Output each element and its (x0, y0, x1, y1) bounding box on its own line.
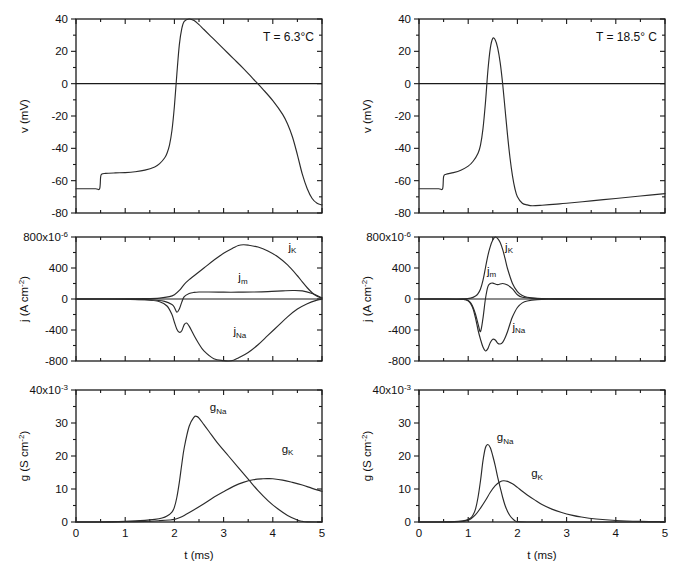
curve-label-j-left-jm-text: jm (237, 271, 248, 286)
y-axis-label-g-right: g (S cm-2) (360, 431, 373, 482)
curve-label-g-right-gNa-text: gNa (497, 431, 514, 446)
curve-label-g-right-gNa: gNa (497, 431, 514, 446)
y-ticklabel-v-left-6: 40 (55, 13, 68, 25)
curve-label-j-right-jm: jm (486, 265, 497, 280)
x-ticklabel-g-right-0: 0 (416, 527, 422, 539)
y-axis-label-v-left: v (mV) (18, 99, 30, 133)
panel-j-left: -800-4000400800x10-6j (A cm-2)jKjmjNa (17, 230, 322, 367)
y-ticklabel-j-left-4: 800x10-6 (23, 230, 68, 243)
figure-canvas: -80-60-40-2002040v (mV)T = 6.3°C-80-60-4… (0, 0, 682, 575)
x-ticklabel-g-right-5: 5 (662, 527, 668, 539)
y-axis-label-v-right: v (mV) (361, 99, 373, 133)
y-ticklabel-g-right-4: 40x10-3 (373, 383, 412, 396)
plot-frame-v-left (76, 19, 322, 213)
y-ticklabel-j-right-2: 0 (405, 293, 411, 305)
y-ticklabel-j-left-3: 400 (49, 262, 68, 274)
curve-label-j-left-jNa: jNa (232, 325, 246, 340)
x-ticklabel-g-right-4: 4 (613, 527, 620, 539)
x-axis-label-g-right: t (ms) (527, 549, 557, 561)
y-ticklabel-v-right-3: -20 (394, 110, 411, 122)
curve-j-right-jK (419, 237, 665, 299)
y-ticklabel-g-right-3: 30 (398, 417, 411, 429)
panel-g-left: 010203040x10-3012345g (S cm-2)t (ms)gNag… (17, 383, 325, 561)
curve-g-right-gNa (419, 444, 665, 522)
y-ticklabel-j-right-0: -800 (388, 355, 411, 367)
temperature-annotation-v-right: T = 18.5° C (596, 30, 657, 44)
y-ticklabel-j-right-3: 400 (392, 262, 411, 274)
x-ticklabel-g-left-1: 1 (122, 527, 128, 539)
curve-g-right-gK (419, 481, 665, 522)
y-ticklabel-j-left-2: 0 (62, 293, 68, 305)
y-ticklabel-v-right-4: 0 (405, 78, 411, 90)
y-ticklabel-g-left-2: 20 (55, 450, 68, 462)
x-ticklabel-g-right-2: 2 (514, 527, 520, 539)
x-ticklabel-g-left-5: 5 (319, 527, 325, 539)
y-ticklabel-g-left-4: 40x10-3 (30, 383, 69, 396)
curve-j-left-jNa (76, 299, 322, 361)
y-axis-label-g-left: g (S cm-2) (17, 431, 30, 482)
y-ticklabel-v-left-1: -60 (51, 175, 68, 187)
plot-frame-g-right (419, 390, 665, 522)
curve-label-j-left-jK: jK (288, 241, 298, 256)
curve-label-g-left-gK-text: gK (282, 443, 294, 458)
curve-label-g-left-gK: gK (282, 443, 294, 458)
plot-frame-v-right (419, 19, 665, 213)
figure-hodgkin-huxley-panels: -80-60-40-2002040v (mV)T = 6.3°C-80-60-4… (0, 0, 682, 575)
y-ticklabel-v-left-4: 0 (62, 78, 68, 90)
curve-v-left-v (76, 19, 322, 205)
y-ticklabel-j-left-1: -400 (45, 324, 68, 336)
curve-label-g-left-gNa: gNa (210, 401, 227, 416)
x-ticklabel-g-left-3: 3 (220, 527, 226, 539)
curve-label-j-right-jK-text: jK (504, 241, 514, 256)
curve-label-j-right-jK: jK (504, 241, 514, 256)
curve-label-j-left-jK-text: jK (288, 241, 298, 256)
x-ticklabel-g-right-1: 1 (465, 527, 471, 539)
y-ticklabel-g-right-0: 0 (405, 516, 411, 528)
curve-label-g-right-gK-text: gK (531, 467, 543, 482)
y-ticklabel-v-left-2: -40 (51, 142, 68, 154)
y-ticklabel-v-left-0: -80 (51, 207, 68, 219)
y-ticklabel-j-right-1: -400 (388, 324, 411, 336)
y-ticklabel-g-left-0: 0 (62, 516, 68, 528)
y-ticklabel-v-left-3: -20 (51, 110, 68, 122)
curve-j-right-jNa (419, 299, 665, 351)
y-axis-label-j-right: j (A cm-2) (360, 276, 373, 323)
plot-frame-g-left (76, 390, 322, 522)
curve-g-left-gK (76, 479, 322, 522)
y-ticklabel-g-right-1: 10 (398, 483, 411, 495)
panel-j-right: -800-4000400800x10-6j (A cm-2)jKjmjNa (360, 230, 665, 367)
y-ticklabel-g-left-1: 10 (55, 483, 68, 495)
curve-j-right-jm (419, 283, 665, 332)
y-ticklabel-v-right-0: -80 (394, 207, 411, 219)
curve-label-g-left-gNa-text: gNa (210, 401, 227, 416)
curve-j-left-jm (76, 290, 322, 312)
y-ticklabel-v-left-5: 20 (55, 45, 68, 57)
x-ticklabel-g-left-4: 4 (270, 527, 277, 539)
y-ticklabel-v-right-1: -60 (394, 175, 411, 187)
y-axis-label-j-left: j (A cm-2) (17, 276, 30, 323)
x-axis-label-g-left: t (ms) (184, 549, 214, 561)
curve-label-j-left-jNa-text: jNa (232, 325, 246, 340)
x-ticklabel-g-left-2: 2 (171, 527, 177, 539)
curve-label-j-right-jm-text: jm (486, 265, 497, 280)
x-ticklabel-g-right-3: 3 (563, 527, 569, 539)
x-ticklabel-g-left-0: 0 (73, 527, 79, 539)
temperature-annotation-v-left: T = 6.3°C (263, 30, 314, 44)
y-ticklabel-v-right-5: 20 (398, 45, 411, 57)
y-ticklabel-g-right-2: 20 (398, 450, 411, 462)
curve-v-right-v (419, 38, 665, 206)
y-ticklabel-v-right-6: 40 (398, 13, 411, 25)
panel-g-right: 010203040x10-3012345g (S cm-2)t (ms)gNag… (360, 383, 668, 561)
y-ticklabel-j-left-0: -800 (45, 355, 68, 367)
curve-g-left-gNa (76, 416, 322, 522)
y-ticklabel-v-right-2: -40 (394, 142, 411, 154)
panel-v-right: -80-60-40-2002040v (mV)T = 18.5° C (361, 13, 665, 219)
curve-label-g-right-gK: gK (531, 467, 543, 482)
curve-label-j-left-jm: jm (237, 271, 248, 286)
curve-label-j-right-jNa-text: jNa (511, 321, 525, 336)
y-ticklabel-g-left-3: 30 (55, 417, 68, 429)
panel-v-left: -80-60-40-2002040v (mV)T = 6.3°C (18, 13, 322, 219)
y-ticklabel-j-right-4: 800x10-6 (366, 230, 411, 243)
curve-label-j-right-jNa: jNa (511, 321, 525, 336)
